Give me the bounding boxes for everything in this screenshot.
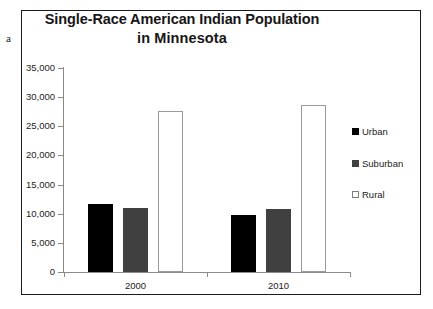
y-axis-tick: [58, 185, 63, 186]
x-axis-tick: [350, 272, 351, 277]
bar-rural-2010: [301, 105, 326, 272]
bar-urban-2000: [88, 204, 113, 272]
panel-label: a: [6, 33, 11, 44]
legend-swatch-icon: [352, 191, 359, 198]
y-axis-tick: [58, 155, 63, 156]
y-axis-tick: [58, 272, 63, 273]
y-axis-tick-label: 15,000: [26, 180, 55, 190]
bar-rural-2000: [158, 111, 183, 272]
y-axis-tick: [58, 126, 63, 127]
x-axis-tick: [207, 272, 208, 277]
legend-label: Suburban: [362, 159, 403, 169]
figure-root: a Single-Race American Indian Population…: [0, 0, 433, 309]
legend-label: Urban: [362, 127, 388, 137]
chart-title: Single-Race American Indian Population i…: [22, 10, 342, 47]
y-axis-tick-label: 10,000: [26, 209, 55, 219]
bar-suburban-2010: [266, 209, 291, 272]
legend-item-rural[interactable]: Rural: [352, 190, 385, 200]
legend-swatch-icon: [352, 128, 359, 135]
y-axis-tick-label: 20,000: [26, 150, 55, 160]
bar-urban-2010: [231, 215, 256, 272]
y-axis-tick: [58, 97, 63, 98]
chart-title-line-1: Single-Race American Indian Population: [22, 10, 342, 29]
x-axis-category-label: 2000: [64, 281, 207, 291]
legend-swatch-icon: [352, 160, 359, 167]
legend-label: Rural: [362, 190, 385, 200]
y-axis-tick: [58, 214, 63, 215]
y-axis-tick: [58, 243, 63, 244]
y-axis-tick-label: 0: [50, 267, 55, 277]
bar-suburban-2000: [123, 208, 148, 272]
x-axis-category-label: 2010: [207, 281, 350, 291]
chart-title-line-2: in Minnesota: [22, 29, 342, 48]
legend-item-suburban[interactable]: Suburban: [352, 159, 403, 169]
y-axis-tick-label: 30,000: [26, 92, 55, 102]
legend-item-urban[interactable]: Urban: [352, 127, 388, 137]
y-axis-tick-label: 5,000: [31, 238, 55, 248]
y-axis-tick-label: 25,000: [26, 121, 55, 131]
y-axis-tick-label: 35,000: [26, 63, 55, 73]
plot-area: [64, 68, 350, 272]
y-axis-tick: [58, 68, 63, 69]
x-axis-tick: [64, 272, 65, 277]
